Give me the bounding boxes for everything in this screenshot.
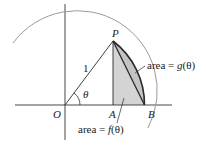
label-area-g: area = g(θ) xyxy=(147,59,195,72)
unit-circle-diagram: P O A B 1 θ area = g(θ) area = f(θ) xyxy=(0,0,206,149)
label-area-f: area = f(θ) xyxy=(78,123,124,136)
radius-OP xyxy=(65,41,113,105)
label-A: A xyxy=(108,108,116,120)
angle-arc xyxy=(74,93,80,105)
label-P: P xyxy=(111,27,119,39)
label-B: B xyxy=(148,108,155,120)
label-O: O xyxy=(53,108,61,120)
label-radius: 1 xyxy=(83,62,89,74)
label-theta: θ xyxy=(83,88,89,100)
